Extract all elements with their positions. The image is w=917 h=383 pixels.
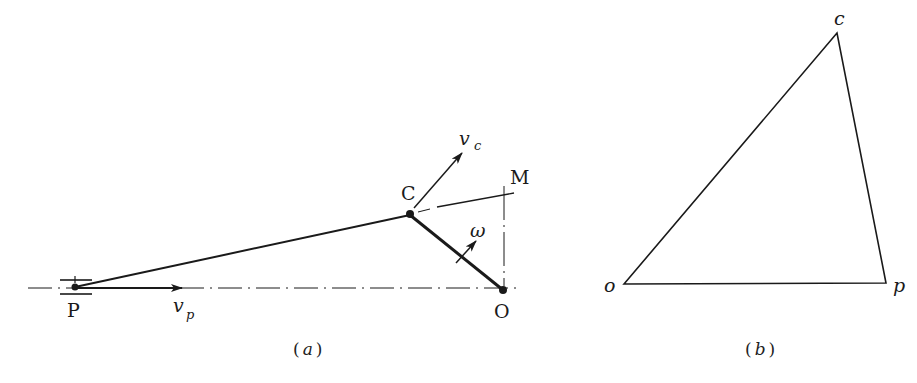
figure-b: o c p (b) [604, 7, 905, 359]
joint-p [72, 284, 79, 291]
figure-a: P C O M v p v c ω (a) [28, 127, 529, 359]
crank-co [410, 215, 503, 290]
label-c-point: c [834, 7, 845, 29]
label-vp-subscript: p [186, 307, 195, 322]
label-p-point: p [893, 274, 905, 296]
label-c: C [401, 182, 416, 204]
velocity-vc-arrow-icon [414, 153, 462, 208]
label-m: M [510, 166, 529, 188]
label-p: P [67, 299, 80, 321]
extension-line-cm-solid [437, 193, 514, 207]
label-o: O [494, 300, 510, 322]
label-vc-subscript: c [474, 138, 482, 153]
extension-line-cm [418, 209, 430, 212]
connecting-rod-pc [75, 215, 410, 287]
label-o-pole: o [604, 274, 615, 296]
joint-c [406, 210, 414, 218]
label-vc: v [459, 127, 470, 149]
velocity-triangle [624, 33, 886, 284]
label-vp: v [173, 294, 184, 316]
diagram-canvas: P C O M v p v c ω (a) o c p (b) [0, 0, 917, 383]
label-omega: ω [470, 219, 486, 241]
caption-a: (a) [293, 339, 322, 359]
caption-b: (b) [745, 339, 775, 359]
joint-o [499, 286, 507, 294]
